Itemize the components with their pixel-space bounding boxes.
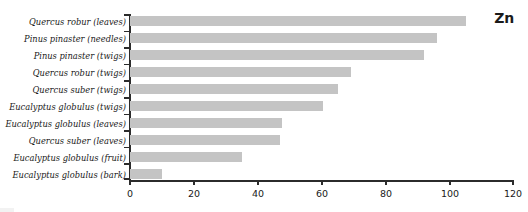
bars-group (130, 14, 520, 180)
category-label: Pinus pinaster (needles) (0, 34, 126, 44)
category-label: Quercus robur (twigs) (0, 68, 126, 78)
zn-bar-chart: Zn Quercus robur (leaves) Pinus pinaster… (0, 0, 528, 212)
plot-area: Quercus robur (leaves) Pinus pinaster (n… (0, 14, 528, 180)
bar (130, 152, 242, 162)
category-label: Pinus pinaster (twigs) (0, 51, 126, 61)
y-axis-category-labels: Quercus robur (leaves) Pinus pinaster (n… (0, 14, 126, 180)
category-label: Eucalyptus globulus (fruit) (0, 153, 126, 163)
category-label: Eucalyptus globulus (twigs) (0, 102, 126, 112)
bar (130, 118, 282, 128)
x-axis-tick-label: 40 (243, 188, 273, 199)
bar (130, 169, 162, 179)
scan-artifact (0, 208, 14, 212)
x-axis-tick-label: 120 (498, 188, 528, 199)
category-label: Eucalyptus globulus (bark) (0, 170, 126, 180)
bar (130, 50, 424, 60)
x-axis-tick (385, 180, 387, 185)
category-label: Eucalyptus globulus (leaves) (0, 119, 126, 129)
x-axis-tick (512, 180, 514, 185)
category-label: Quercus robur (leaves) (0, 17, 126, 27)
x-axis-tick (321, 180, 323, 185)
category-label: Quercus suber (leaves) (0, 136, 126, 146)
x-axis-tick-label: 20 (179, 188, 209, 199)
x-axis-tick (129, 180, 131, 185)
x-axis-tick (257, 180, 259, 185)
x-axis-tick (193, 180, 195, 185)
bar (130, 33, 437, 43)
category-label: Quercus suber (twigs) (0, 85, 126, 95)
x-axis-tick-label: 0 (115, 188, 145, 199)
bar (130, 16, 466, 26)
x-axis-tick-label: 60 (307, 188, 337, 199)
bar (130, 67, 351, 77)
bar (130, 135, 280, 145)
x-axis-tick-label: 80 (371, 188, 401, 199)
bar (130, 84, 338, 94)
bar (130, 101, 323, 111)
x-axis-tick-label: 100 (435, 188, 465, 199)
x-axis-tick (449, 180, 451, 185)
